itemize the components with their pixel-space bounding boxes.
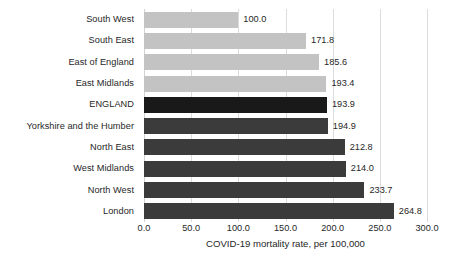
bar[interactable] xyxy=(144,161,346,177)
category-label: South West xyxy=(0,14,139,25)
bar-track: 193.4 xyxy=(144,73,451,94)
bar[interactable] xyxy=(144,33,306,49)
bar-row: East Midlands193.4 xyxy=(0,73,451,94)
bar-row: North West233.7 xyxy=(0,179,451,200)
category-label: East Midlands xyxy=(0,78,139,89)
bar-value-label: 171.8 xyxy=(311,35,334,46)
bar-value-label: 212.8 xyxy=(350,142,373,153)
bar-value-label: 193.4 xyxy=(331,78,354,89)
bar[interactable] xyxy=(144,97,327,113)
bar-track: 212.8 xyxy=(144,137,451,158)
bar[interactable] xyxy=(144,118,328,134)
x-tick-label: 50.0 xyxy=(182,222,200,235)
bar-value-label: 264.8 xyxy=(399,206,422,217)
bar-row: East of England185.6 xyxy=(0,52,451,73)
bar-row: West Midlands214.0 xyxy=(0,158,451,179)
x-tick-label: 250.0 xyxy=(368,222,391,235)
category-label: ENGLAND xyxy=(0,99,139,110)
bar-value-label: 194.9 xyxy=(333,121,356,132)
bar-value-label: 233.7 xyxy=(369,185,392,196)
x-tick-label: 150.0 xyxy=(274,222,297,235)
category-label: South East xyxy=(0,35,139,46)
category-label: North West xyxy=(0,185,139,196)
category-label: East of England xyxy=(0,57,139,68)
category-label: North East xyxy=(0,142,139,153)
bar-value-label: 193.9 xyxy=(332,99,355,110)
category-label: West Midlands xyxy=(0,163,139,174)
x-axis-ticks: 0.050.0100.0150.0200.0250.0300.0 xyxy=(0,222,451,236)
x-tick-label: 300.0 xyxy=(416,222,439,235)
bar-chart: South West100.0South East171.8East of En… xyxy=(0,0,451,257)
bar-value-label: 100.0 xyxy=(243,14,266,25)
bar-row: Yorkshire and the Humber194.9 xyxy=(0,115,451,136)
bar-track: 100.0 xyxy=(144,9,451,30)
bar-row: ENGLAND193.9 xyxy=(0,94,451,115)
bar-track: 214.0 xyxy=(144,158,451,179)
bar-value-label: 214.0 xyxy=(351,163,374,174)
bar-row: South West100.0 xyxy=(0,9,451,30)
bar[interactable] xyxy=(144,54,319,70)
category-label: Yorkshire and the Humber xyxy=(0,121,139,132)
x-tick-label: 0.0 xyxy=(138,222,151,235)
bar[interactable] xyxy=(144,139,345,155)
bar-row: London264.8 xyxy=(0,201,451,222)
x-axis-title: COVID-19 mortality rate, per 100,000 xyxy=(144,237,427,250)
bar[interactable] xyxy=(144,203,394,219)
bar-rows: South West100.0South East171.8East of En… xyxy=(0,9,451,222)
bar-track: 193.9 xyxy=(144,94,451,115)
bar-track: 233.7 xyxy=(144,179,451,200)
bar[interactable] xyxy=(144,182,364,198)
x-tick-label: 100.0 xyxy=(227,222,250,235)
bar-track: 194.9 xyxy=(144,115,451,136)
x-tick-label: 200.0 xyxy=(321,222,344,235)
bar-track: 185.6 xyxy=(144,52,451,73)
bar-track: 264.8 xyxy=(144,201,451,222)
bar-row: South East171.8 xyxy=(0,30,451,51)
bar[interactable] xyxy=(144,76,326,92)
bar[interactable] xyxy=(144,12,238,28)
bar-track: 171.8 xyxy=(144,30,451,51)
bar-row: North East212.8 xyxy=(0,137,451,158)
category-label: London xyxy=(0,206,139,217)
bar-value-label: 185.6 xyxy=(324,57,347,68)
